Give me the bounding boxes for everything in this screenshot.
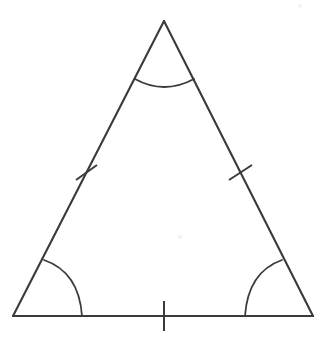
- triangle-interior: [13, 21, 313, 316]
- scan-speck-center: [178, 235, 182, 239]
- figure-root: [0, 0, 325, 337]
- scan-speck-upper-right: [298, 4, 302, 8]
- triangle-diagram: [0, 0, 325, 337]
